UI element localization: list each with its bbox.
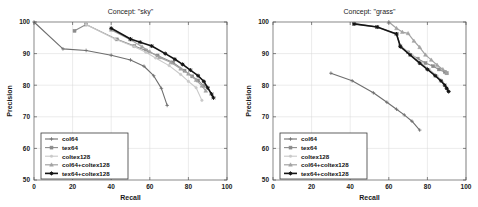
- data-point-marker: [196, 74, 200, 78]
- y-tick-label: 100: [19, 18, 30, 25]
- series-line-tex64+coltex128: [354, 24, 449, 92]
- series-line-col64: [331, 73, 420, 130]
- data-point-marker: [168, 64, 171, 67]
- data-point-marker: [154, 57, 157, 60]
- data-point-marker: [73, 29, 76, 32]
- legend-label-tex64+coltex128: tex64+coltex128: [62, 170, 110, 177]
- series-line-coltex128: [86, 25, 202, 101]
- x-tick-label: 40: [108, 183, 116, 190]
- data-point-marker: [114, 38, 117, 41]
- x-tick-label: 80: [185, 183, 193, 190]
- y-tick-label: 80: [23, 82, 31, 89]
- y-tick-label: 70: [262, 113, 270, 120]
- legend-label-col64: col64: [301, 135, 317, 142]
- data-point-marker: [129, 58, 133, 62]
- data-point-marker: [50, 171, 54, 175]
- y-tick-label: 70: [23, 113, 31, 120]
- legend-label-tex64: tex64: [301, 144, 317, 151]
- data-point-marker: [329, 71, 333, 75]
- data-point-marker: [188, 68, 192, 72]
- data-point-marker: [187, 80, 190, 83]
- data-point-marker: [109, 26, 113, 30]
- data-point-marker: [145, 51, 148, 54]
- data-point-marker: [150, 44, 154, 48]
- legend-label-col64+coltex128: col64+coltex128: [62, 161, 110, 168]
- legend-label-col64+coltex128: col64+coltex128: [301, 161, 349, 168]
- series-tex64: [73, 23, 205, 87]
- data-point-marker: [437, 68, 440, 71]
- data-point-marker: [50, 146, 53, 149]
- chart-title-sky: Concept: "sky": [108, 8, 154, 16]
- data-point-marker: [433, 74, 437, 78]
- legend-label-coltex128: coltex128: [301, 153, 330, 160]
- data-point-marker: [181, 62, 185, 66]
- data-point-marker: [201, 99, 204, 102]
- data-point-marker: [424, 62, 427, 65]
- x-tick-label: 20: [69, 183, 77, 190]
- x-tick-label: 0: [32, 183, 36, 190]
- data-point-marker: [425, 67, 429, 71]
- data-point-marker: [447, 90, 451, 94]
- x-tick-label: 0: [271, 183, 275, 190]
- data-point-marker: [289, 146, 292, 149]
- y-tick-label: 90: [262, 50, 270, 57]
- data-point-marker: [418, 61, 422, 65]
- data-point-marker: [211, 96, 215, 100]
- y-axis-label: Precision: [245, 85, 252, 117]
- legend-label-tex64+coltex128: tex64+coltex128: [301, 170, 349, 177]
- y-tick-label: 80: [262, 82, 270, 89]
- x-tick-label: 60: [146, 183, 154, 190]
- x-tick-label: 60: [385, 183, 393, 190]
- series-line-col64: [34, 22, 167, 105]
- chart-panel-grass: Concept: "grass"020406080100506070809010…: [239, 0, 478, 207]
- data-point-marker: [289, 155, 292, 158]
- x-axis-label: Recall: [120, 194, 141, 201]
- data-point-marker: [109, 53, 113, 57]
- series-line-tex64: [75, 25, 204, 86]
- y-tick-label: 100: [258, 18, 269, 25]
- data-point-marker: [445, 86, 449, 90]
- data-point-marker: [163, 52, 167, 56]
- data-point-marker: [289, 171, 293, 175]
- x-tick-label: 100: [222, 183, 233, 190]
- data-point-marker: [195, 86, 198, 89]
- data-point-marker: [133, 45, 136, 48]
- chart-svg-grass: Concept: "grass"020406080100506070809010…: [239, 0, 478, 207]
- y-axis-label: Precision: [6, 85, 13, 117]
- series-col64+coltex128: [387, 20, 449, 75]
- chart-panel-sky: Concept: "sky"0204060801005060708090100R…: [0, 0, 239, 207]
- y-tick-label: 60: [262, 145, 270, 152]
- series-coltex128: [85, 23, 203, 101]
- series-col64: [32, 20, 169, 107]
- data-point-marker: [50, 155, 53, 158]
- chart-title-grass: Concept: "grass": [343, 8, 396, 16]
- data-point-marker: [138, 40, 142, 44]
- precision-recall-figure: Concept: "sky"0204060801005060708090100R…: [0, 0, 478, 207]
- series-col64: [329, 71, 421, 131]
- data-point-marker: [84, 49, 88, 53]
- legend-label-col64: col64: [62, 135, 78, 142]
- x-tick-label: 20: [308, 183, 316, 190]
- data-point-marker: [375, 25, 379, 29]
- legend-label-coltex128: coltex128: [62, 153, 91, 160]
- chart-svg-sky: Concept: "sky"0204060801005060708090100R…: [0, 0, 239, 207]
- data-point-marker: [439, 79, 443, 83]
- series-line-col64+coltex128: [111, 30, 206, 91]
- data-point-marker: [165, 104, 169, 108]
- y-tick-label: 90: [23, 50, 31, 57]
- x-tick-label: 100: [461, 183, 472, 190]
- y-tick-label: 50: [262, 176, 270, 183]
- x-tick-label: 80: [424, 183, 432, 190]
- data-point-marker: [352, 22, 356, 26]
- data-point-marker: [179, 73, 182, 76]
- y-tick-label: 60: [23, 145, 31, 152]
- data-point-marker: [432, 65, 435, 68]
- series-line-tex64+coltex128: [111, 28, 213, 98]
- x-tick-label: 40: [347, 183, 355, 190]
- x-axis-label: Recall: [359, 194, 380, 201]
- y-tick-label: 50: [23, 176, 31, 183]
- legend-label-tex64: tex64: [62, 144, 78, 151]
- data-point-marker: [85, 23, 88, 26]
